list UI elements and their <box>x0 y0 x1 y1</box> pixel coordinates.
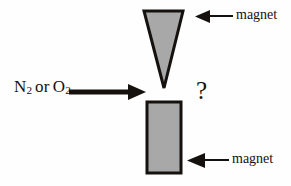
top-magnet-label: magnet <box>236 8 277 22</box>
bottom-magnet-rectangle <box>147 102 181 173</box>
gas-label-conjunction: or <box>35 77 50 96</box>
gas-beam-arrow <box>69 84 146 100</box>
species-2-subscript: 2 <box>65 84 71 96</box>
species-2-symbol: O <box>53 77 65 96</box>
species-1-subscript: 2 <box>26 84 32 96</box>
bottom-magnet-callout-arrow <box>187 153 229 168</box>
species-1-symbol: N <box>14 77 26 96</box>
top-magnet-callout-arrow <box>195 10 233 23</box>
gas-species-label: N2orO2 <box>14 78 71 97</box>
diagram-canvas: N2orO2 ? magnet magnet <box>0 0 291 186</box>
bottom-magnet-label: magnet <box>232 152 273 166</box>
question-mark: ? <box>196 78 207 103</box>
top-magnet-triangle <box>144 11 183 88</box>
